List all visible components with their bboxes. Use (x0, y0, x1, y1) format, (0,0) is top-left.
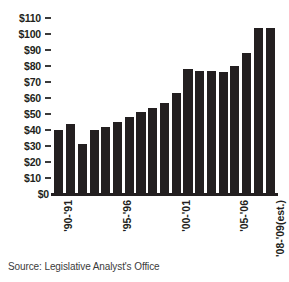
source-note: Source: Legislative Analyst's Office (8, 261, 160, 272)
bar (136, 112, 145, 194)
y-axis-tick-mark (45, 129, 51, 131)
bar (160, 103, 169, 194)
y-axis-tick-mark (45, 177, 51, 179)
bar (113, 122, 122, 194)
y-axis-tick-mark (45, 145, 51, 147)
bar (172, 93, 181, 194)
y-axis-tick-mark (45, 161, 51, 163)
bar (266, 28, 275, 194)
x-axis-tick-label: '08-'09(est.) (275, 200, 286, 257)
y-axis-tick-label: $110 (19, 13, 45, 24)
y-axis-tick-mark (45, 65, 51, 67)
y-axis-tick-mark (45, 81, 51, 83)
bar (125, 117, 134, 194)
x-axis-tick-label: '95-'96 (122, 200, 133, 232)
bar (78, 144, 87, 194)
bar (101, 127, 110, 194)
y-axis-tick-label: $60 (24, 93, 45, 104)
bar (219, 72, 228, 194)
x-axis-tick-label: '00-'01 (181, 200, 192, 232)
bar (54, 130, 63, 194)
y-axis-tick-label: $30 (24, 141, 45, 152)
plot-area (53, 18, 276, 194)
bar-chart-figure: $110$100$90$80$70$60$50$40$30$20$10$0 '9… (0, 0, 289, 282)
y-axis-tick-label: $10 (24, 173, 45, 184)
y-axis-tick-mark (45, 97, 51, 99)
y-axis-tick-label: $100 (18, 29, 45, 40)
x-axis-tick-label: '90-'91 (63, 200, 74, 232)
bar (183, 69, 192, 194)
bar (90, 130, 99, 194)
bar (195, 71, 204, 194)
bar (207, 71, 216, 194)
y-axis-tick-label: $50 (24, 109, 45, 120)
y-axis-tick-mark (45, 113, 51, 115)
y-axis-tick-label: $90 (24, 45, 45, 56)
y-axis-tick-mark (45, 33, 51, 35)
y-axis-tick-mark (45, 49, 51, 51)
y-axis-tick-label: $80 (24, 61, 45, 72)
bar (254, 28, 263, 194)
bar (66, 124, 75, 194)
y-axis-tick-label: $40 (24, 125, 45, 136)
bar (242, 53, 251, 194)
y-axis-tick-mark (45, 17, 51, 19)
y-axis-tick-label: $20 (24, 157, 45, 168)
x-axis-tick-label: '05-'06 (239, 200, 250, 232)
y-axis-tick-label: $70 (24, 77, 45, 88)
bar (148, 108, 157, 194)
bar (230, 66, 239, 194)
